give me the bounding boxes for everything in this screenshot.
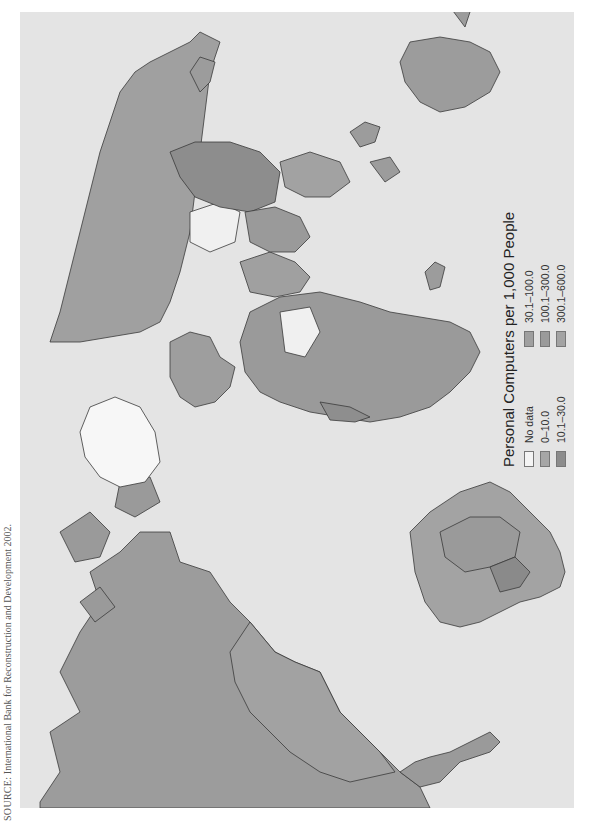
legend-label: 300.1–600.0 xyxy=(555,265,567,323)
swatch-no-data xyxy=(524,451,534,467)
source-note: SOURCE: International Bank for Reconstru… xyxy=(2,524,13,821)
europe xyxy=(170,332,235,407)
legend-item-10-30: 10.1–30.0 xyxy=(554,347,568,467)
legend-label: No data xyxy=(523,406,535,443)
india xyxy=(245,207,310,252)
legend-label: 100.1–300.0 xyxy=(539,265,551,323)
legend-item-30-100: 30.1–100.0 xyxy=(522,227,536,347)
legend-item-0-10: 0–10.0 xyxy=(538,347,552,467)
legend-items: No data 0–10.0 10.1–30.0 30.1–100.0 100.… xyxy=(522,137,568,467)
legend-item-100-300: 100.1–300.0 xyxy=(538,227,552,347)
africa xyxy=(240,292,480,422)
source-label: SOURCE: xyxy=(2,777,13,821)
legend: Personal Computers per 1,000 People No d… xyxy=(500,137,574,467)
australia xyxy=(400,37,500,112)
mexico-central-america xyxy=(400,732,500,787)
indonesia xyxy=(350,122,380,147)
legend-label: 30.1–100.0 xyxy=(523,270,535,323)
world-map: Personal Computers per 1,000 People No d… xyxy=(20,12,574,808)
swatch-10-30 xyxy=(556,451,566,467)
swatch-300-600 xyxy=(556,331,566,347)
legend-label: 0–10.0 xyxy=(539,411,551,443)
source-text: International Bank for Reconstruction an… xyxy=(2,524,13,774)
swatch-30-100 xyxy=(524,331,534,347)
southeast-asia xyxy=(280,152,350,197)
greenland xyxy=(80,397,160,487)
arctic-islands xyxy=(60,512,110,562)
middle-east xyxy=(240,252,310,297)
legend-title: Personal Computers per 1,000 People xyxy=(500,137,517,467)
map-canvas xyxy=(20,12,574,808)
new-zealand xyxy=(450,12,470,27)
swatch-0-10 xyxy=(540,451,550,467)
legend-label: 10.1–30.0 xyxy=(555,396,567,443)
legend-item-no-data: No data xyxy=(522,347,536,467)
central-asia-no-data xyxy=(190,202,240,252)
swatch-100-300 xyxy=(540,331,550,347)
legend-item-300-600: 300.1–600.0 xyxy=(554,227,568,347)
madagascar xyxy=(425,262,445,290)
